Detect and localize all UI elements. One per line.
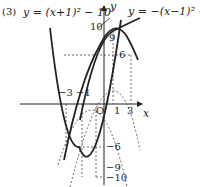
x-tick-3: 3	[127, 106, 133, 116]
y-axis-label: y	[110, 1, 116, 12]
y-tick-10: 10	[90, 22, 103, 32]
y-tick-neg10: −10	[106, 173, 127, 183]
y-tick-neg6: −6	[106, 142, 121, 152]
x-tick-1: 1	[114, 106, 120, 116]
x-axis-label: x	[143, 108, 149, 119]
y-tick-9: 9	[109, 33, 115, 43]
x-tick-neg3: −3	[58, 88, 73, 98]
y-tick-6: 6	[119, 50, 125, 60]
x-tick-neg1: −1	[76, 88, 91, 98]
origin-label: O	[96, 106, 104, 116]
